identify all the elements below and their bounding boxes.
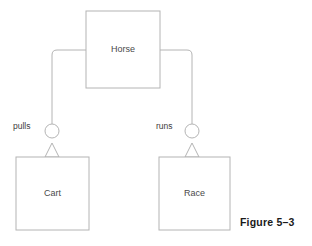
edge-label-pulls: pulls [13, 121, 30, 131]
edge-pulls-circle [45, 124, 59, 138]
diagram-canvas: pulls runs Horse Cart Race Figure 5–3 [0, 0, 312, 246]
edge-pulls[interactable]: pulls [13, 50, 86, 157]
edge-runs-generalization-arrow [185, 143, 199, 157]
node-cart-label: Cart [44, 188, 62, 198]
figure-caption: Figure 5–3 [240, 216, 295, 228]
edge-pulls-generalization-arrow [45, 143, 59, 157]
node-horse[interactable]: Horse [86, 11, 160, 88]
node-race[interactable]: Race [159, 157, 230, 230]
node-race-label: Race [184, 188, 205, 198]
uml-class-diagram: pulls runs Horse Cart Race [0, 0, 312, 246]
edge-runs-circle [185, 124, 199, 138]
node-cart[interactable]: Cart [16, 157, 89, 230]
edge-label-runs: runs [156, 121, 173, 131]
edge-pulls-connector [52, 50, 86, 124]
edge-runs[interactable]: runs [156, 50, 199, 157]
node-horse-label: Horse [111, 44, 135, 54]
edge-runs-connector [160, 50, 192, 124]
